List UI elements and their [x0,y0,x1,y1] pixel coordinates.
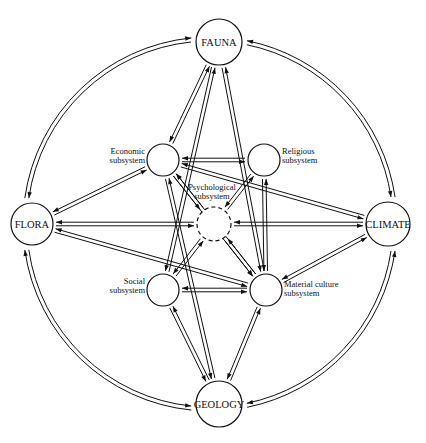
nodes-layer: FAUNAFLORACLIMATEGEOLOGYEconomicsubsyste… [11,19,411,427]
node-psychological: Psychologicalsubsystem [188,182,236,241]
link-flora-psychological [56,220,194,228]
node-material-circle [250,274,282,306]
node-religious-circle [248,144,280,176]
node-climate: CLIMATE [365,202,411,246]
node-psychological-label-line: subsystem [194,191,230,201]
node-social-circle [147,274,179,306]
link-social-psychological [173,239,203,276]
node-climate-label: CLIMATE [365,219,411,230]
node-flora-label: FLORA [15,219,50,230]
node-psychological-circle [197,207,231,241]
node-flora: FLORA [11,203,53,245]
node-religious-label-line: subsystem [282,155,318,165]
link-flora-economic [53,167,147,215]
link-climate-psychological [234,220,363,228]
node-geology: GEOLOGY [194,381,245,427]
node-geology-label: GEOLOGY [194,399,245,410]
node-material: Material culturesubsystem [250,274,339,306]
node-economic-label-line: subsystem [110,155,146,165]
node-fauna-label: FAUNA [201,37,237,48]
link-religious-material [262,179,269,271]
node-economic-circle [147,144,179,176]
node-material-label-line: subsystem [284,288,320,298]
node-fauna: FAUNA [196,19,242,65]
link-material-psychological [225,239,256,277]
ecosystem-diagram: FAUNAFLORACLIMATEGEOLOGYEconomicsubsyste… [0,0,426,443]
link-climate-material [282,234,367,282]
link-geology-material [227,307,260,381]
node-social: Socialsubsystem [110,274,179,306]
node-social-label-line: subsystem [110,285,146,295]
node-religious: Religioussubsystem [248,144,318,176]
